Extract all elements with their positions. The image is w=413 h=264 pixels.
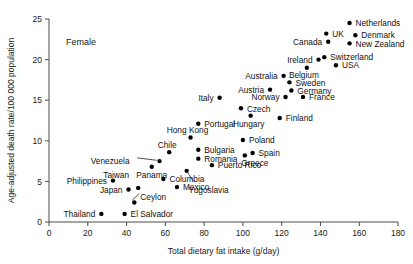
data-point [132, 200, 136, 204]
data-point-label: Spain [259, 148, 281, 158]
scatter-chart: 0204060801001201401601800510152025Total … [0, 0, 413, 264]
data-point [289, 88, 293, 92]
data-point-label: Poland [249, 135, 275, 145]
data-point-label: Venezuela [91, 156, 130, 166]
data-point [126, 187, 130, 191]
data-point [301, 95, 305, 99]
data-point [250, 151, 254, 155]
data-point-label: Netherlands [356, 18, 401, 28]
data-point [196, 156, 200, 160]
x-tick-label: 40 [122, 228, 132, 238]
x-tick-label: 60 [161, 228, 171, 238]
label-leader-line [137, 158, 156, 160]
data-point [241, 138, 245, 142]
data-point [167, 150, 171, 154]
data-point-label: Italy [198, 93, 214, 103]
data-point-label: Hong Kong [167, 125, 209, 135]
data-point-label: Ceylon [140, 192, 166, 202]
data-point-label: Mexico [183, 182, 210, 192]
y-tick-label: 20 [33, 55, 43, 65]
data-point [283, 95, 287, 99]
data-point [188, 135, 192, 139]
data-point-label: New Zealand [356, 39, 405, 49]
y-axis-title: Age-adjusted death rate/100 000 populati… [6, 38, 16, 204]
data-point [248, 113, 252, 117]
data-point-label: USA [342, 60, 360, 70]
data-point-label: Czech [247, 104, 271, 114]
data-point [99, 212, 103, 216]
data-point-label: Ireland [287, 55, 313, 65]
y-tick-label: 15 [33, 95, 43, 105]
data-point-label: El Salvador [131, 209, 174, 219]
data-point [324, 31, 328, 35]
x-tick-label: 100 [236, 228, 250, 238]
data-point [334, 63, 338, 67]
data-point [175, 185, 179, 189]
x-tick-label: 20 [83, 228, 93, 238]
data-point [281, 74, 285, 78]
y-tick-label: 25 [33, 14, 43, 24]
data-point [157, 159, 161, 163]
data-point-label: Taiwan [103, 170, 129, 180]
data-point [217, 96, 221, 100]
panel-label: Female [66, 37, 96, 47]
data-point-label: Canada [293, 37, 322, 47]
data-point [347, 21, 351, 25]
x-tick-label: 120 [275, 228, 289, 238]
data-point [136, 186, 140, 190]
y-tick-label: 10 [33, 136, 43, 146]
data-point [316, 57, 320, 61]
data-point-label: Puerto Rico [218, 160, 262, 170]
label-leader-line [132, 194, 139, 200]
data-point [239, 106, 243, 110]
data-point [196, 148, 200, 152]
x-tick-label: 160 [352, 228, 366, 238]
x-axis-title: Total dietary fat intake (g/day) [168, 246, 280, 256]
data-point [161, 177, 165, 181]
data-point [326, 40, 330, 44]
data-point-label: Japan [100, 185, 123, 195]
data-point [150, 165, 154, 169]
data-point [278, 116, 282, 120]
data-point-label: Portugal [204, 119, 235, 129]
x-tick-label: 80 [199, 228, 209, 238]
data-point-label: Thailand [64, 209, 96, 219]
data-point [347, 41, 351, 45]
x-tick-label: 180 [391, 228, 405, 238]
data-point [122, 212, 126, 216]
x-tick-label: 0 [47, 228, 52, 238]
x-tick-label: 140 [313, 228, 327, 238]
data-point [353, 33, 357, 37]
data-point [184, 169, 188, 173]
data-point-label: Chile [158, 140, 177, 150]
data-point-label: UK [332, 29, 344, 39]
data-point-label: Hungary [233, 119, 265, 129]
data-point [287, 80, 291, 84]
plot-area: 0204060801001201401601800510152025Total … [0, 0, 413, 264]
data-point-label: France [309, 92, 335, 102]
y-tick-label: 5 [37, 177, 42, 187]
data-point-label: Australia [245, 71, 278, 81]
data-point [210, 163, 214, 167]
y-tick-label: 0 [37, 217, 42, 227]
data-point [322, 55, 326, 59]
data-point-label: Norway [251, 92, 280, 102]
data-point-label: Finland [286, 113, 314, 123]
